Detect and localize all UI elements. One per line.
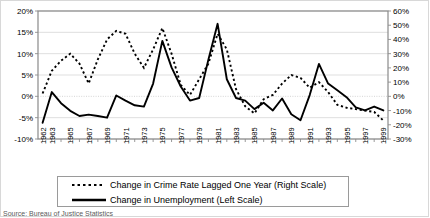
gridlines: [38, 11, 388, 139]
solid-line-swatch-icon: [68, 195, 108, 205]
svg-text:1983: 1983: [232, 127, 241, 144]
svg-text:-20%: -20%: [393, 121, 412, 130]
svg-text:1977: 1977: [177, 127, 186, 144]
svg-text:1999: 1999: [379, 127, 388, 144]
svg-text:-30%: -30%: [393, 135, 412, 144]
svg-text:20%: 20%: [17, 7, 33, 16]
legend-item-unemployment: Change in Unemployment (Left Scale): [58, 192, 348, 207]
svg-text:1973: 1973: [140, 127, 149, 144]
svg-text:1993: 1993: [324, 127, 333, 144]
svg-text:15%: 15%: [17, 28, 33, 37]
svg-text:-10%: -10%: [14, 135, 33, 144]
svg-text:1963: 1963: [48, 127, 57, 144]
svg-text:60%: 60%: [393, 7, 409, 16]
svg-text:0%: 0%: [393, 92, 405, 101]
svg-text:30%: 30%: [393, 50, 409, 59]
svg-text:20%: 20%: [393, 64, 409, 73]
legend-item-crime-rate: Change in Crime Rate Lagged One Year (Ri…: [58, 177, 348, 192]
svg-text:-10%: -10%: [393, 107, 412, 116]
svg-text:0%: 0%: [21, 92, 33, 101]
chart-legend: Change in Crime Rate Lagged One Year (Ri…: [57, 176, 349, 207]
series-unemployment-line: [43, 24, 384, 123]
svg-text:5%: 5%: [21, 71, 33, 80]
svg-text:1989: 1989: [287, 127, 296, 144]
svg-text:10%: 10%: [17, 50, 33, 59]
svg-text:1985: 1985: [250, 127, 259, 144]
dashed-line-swatch-icon: [68, 180, 108, 190]
svg-text:50%: 50%: [393, 21, 409, 30]
svg-text:1981: 1981: [214, 127, 223, 144]
svg-text:1991: 1991: [306, 127, 315, 144]
axis-ticks: [35, 11, 391, 142]
svg-text:1997: 1997: [361, 127, 370, 144]
x-axis-tick-labels: 1962196319651967196919711973197519771979…: [39, 127, 389, 144]
chart-screenshot: 20%15%10%5%0%-5%-10% 60%50%40%30%20%10%0…: [0, 0, 430, 218]
svg-text:1975: 1975: [158, 127, 167, 144]
svg-text:10%: 10%: [393, 78, 409, 87]
right-axis-tick-labels: 60%50%40%30%20%10%0%-10%-20%-30%: [393, 7, 412, 144]
svg-text:1962: 1962: [39, 127, 48, 144]
svg-text:1969: 1969: [103, 127, 112, 144]
legend-label-crime-rate: Change in Crime Rate Lagged One Year (Ri…: [110, 180, 326, 190]
svg-text:1965: 1965: [66, 127, 75, 144]
svg-text:1967: 1967: [85, 127, 94, 144]
svg-text:1979: 1979: [195, 127, 204, 144]
svg-text:1995: 1995: [343, 127, 352, 144]
svg-text:-5%: -5%: [19, 114, 33, 123]
svg-text:1987: 1987: [269, 127, 278, 144]
legend-label-unemployment: Change in Unemployment (Left Scale): [110, 195, 263, 205]
source-note: Source: Bureau of Justice Statistics: [3, 210, 303, 218]
svg-text:40%: 40%: [393, 35, 409, 44]
svg-text:1971: 1971: [122, 127, 131, 144]
left-axis-tick-labels: 20%15%10%5%0%-5%-10%: [14, 7, 33, 144]
